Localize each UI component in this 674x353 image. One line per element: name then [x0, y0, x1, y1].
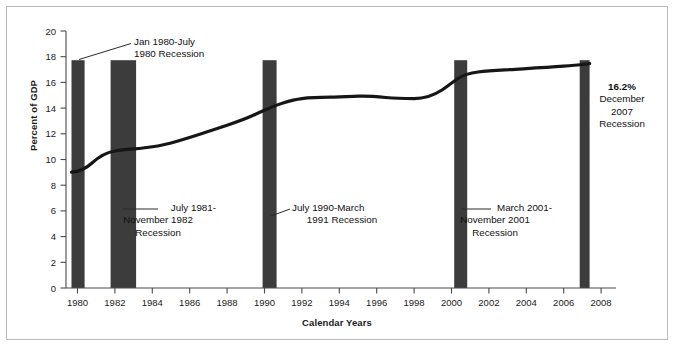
annotation-rec-2001-line2: November 2001	[438, 214, 552, 226]
recession-band-july-1981-november-1982	[111, 60, 137, 288]
x-tick-label: 1982	[95, 297, 135, 308]
y-tick-label: 8	[30, 180, 56, 191]
annotation-rec-2007-line1: December	[586, 93, 658, 105]
annotation-rec-1990-91-line2: 1991 Recession	[292, 214, 392, 226]
x-tick-label: 2000	[432, 297, 472, 308]
x-axis	[66, 288, 616, 294]
x-tick-label: 1994	[319, 297, 359, 308]
x-tick-label: 2008	[581, 297, 621, 308]
x-tick-label: 1984	[132, 297, 172, 308]
annotation-rec-1981-82-line2: November 1982	[100, 214, 216, 226]
x-tick-label: 1980	[58, 297, 98, 308]
x-tick-label: 1996	[357, 297, 397, 308]
recession-bands	[72, 60, 590, 288]
x-axis-title: Calendar Years	[0, 317, 674, 328]
annotation-rec-2001-line3: Recession	[438, 227, 552, 239]
recession-band-jan-1980-july-1980	[72, 60, 85, 288]
annotation-rec-1981-82-line3: Recession	[100, 227, 216, 239]
x-tick-label: 1992	[282, 297, 322, 308]
recession-band-july-1990-march-1991	[263, 60, 277, 288]
annotation-rec-1980: Jan 1980-July 1980 Recession	[134, 36, 204, 61]
annotation-rec-1990-91-line1: July 1990-March	[292, 202, 392, 214]
x-tick-label: 1998	[394, 297, 434, 308]
annotation-rec-1980-line1: Jan 1980-July	[134, 36, 204, 48]
x-tick-label: 2004	[506, 297, 546, 308]
annotation-rec-1990-91: July 1990-March 1991 Recession	[292, 202, 392, 227]
annotation-rec-1981-82-line1: July 1981-	[100, 202, 216, 214]
annotation-rec-2007-value: 16.2%	[608, 81, 636, 92]
gdp-percent-line	[72, 64, 590, 173]
y-tick-label: 6	[30, 205, 56, 216]
annotation-rec-2007: 16.2% December 2007 Recession	[586, 81, 658, 131]
y-tick-label: 4	[30, 231, 56, 242]
leader-line-rec-1980	[79, 44, 131, 60]
y-axis-title: Percent of GDP	[28, 61, 39, 171]
x-tick-label: 2006	[544, 297, 584, 308]
x-tick-label: 1988	[207, 297, 247, 308]
x-tick-label: 1990	[245, 297, 285, 308]
chart-figure: 20 18 16 14 12 10 8 6 4 2 0 1980 1982 19…	[0, 0, 674, 353]
annotation-rec-2001: March 2001- November 2001 Recession	[438, 202, 552, 239]
y-tick-label: 20	[30, 26, 56, 37]
annotation-rec-1980-line2: 1980 Recession	[134, 48, 204, 60]
annotation-rec-2007-line2: 2007	[586, 106, 658, 118]
recession-band-march-2001-november-2001	[454, 60, 467, 288]
annotation-rec-2001-line1: March 2001-	[438, 202, 552, 214]
y-tick-label: 2	[30, 257, 56, 268]
annotation-rec-1981-82: July 1981- November 1982 Recession	[100, 202, 216, 239]
annotation-leader-lines	[79, 44, 491, 217]
y-axis	[61, 31, 67, 288]
x-tick-label: 2002	[469, 297, 509, 308]
x-tick-label: 1986	[170, 297, 210, 308]
y-tick-label: 0	[30, 283, 56, 294]
annotation-rec-2007-line3: Recession	[586, 118, 658, 130]
